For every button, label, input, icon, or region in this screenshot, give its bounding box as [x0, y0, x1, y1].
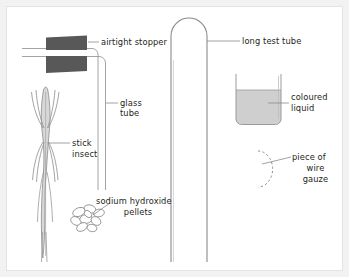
leader-wire-gauze — [262, 157, 291, 164]
airtight-stopper — [46, 36, 87, 74]
label-long-test-tube: long test tube — [242, 36, 301, 47]
label-wire-gauze-line2: wire — [292, 163, 339, 174]
stick-insect — [32, 87, 60, 262]
label-sodium-hydroxide-line1: sodium hydroxide — [96, 196, 172, 207]
diagram-figure: airtight stopper long test tube glass tu… — [0, 0, 349, 277]
label-airtight-stopper: airtight stopper — [101, 37, 167, 48]
label-wire-gauze-line1: piece of — [292, 152, 326, 163]
label-stick-insect-line1: stick — [72, 138, 92, 149]
beaker — [236, 74, 281, 125]
label-wire-gauze-line3: gauze — [292, 174, 339, 185]
wire-gauze — [258, 151, 273, 187]
label-glass-tube-line1: glass — [120, 98, 142, 109]
label-coloured-liquid-line2: liquid — [291, 103, 314, 114]
long-test-tube — [171, 18, 207, 262]
label-coloured-liquid-line1: coloured — [291, 92, 328, 103]
label-glass-tube-line2: tube — [120, 108, 139, 119]
label-sodium-hydroxide-line2: pellets — [96, 207, 180, 218]
label-stick-insect-line2: insect — [72, 149, 97, 160]
